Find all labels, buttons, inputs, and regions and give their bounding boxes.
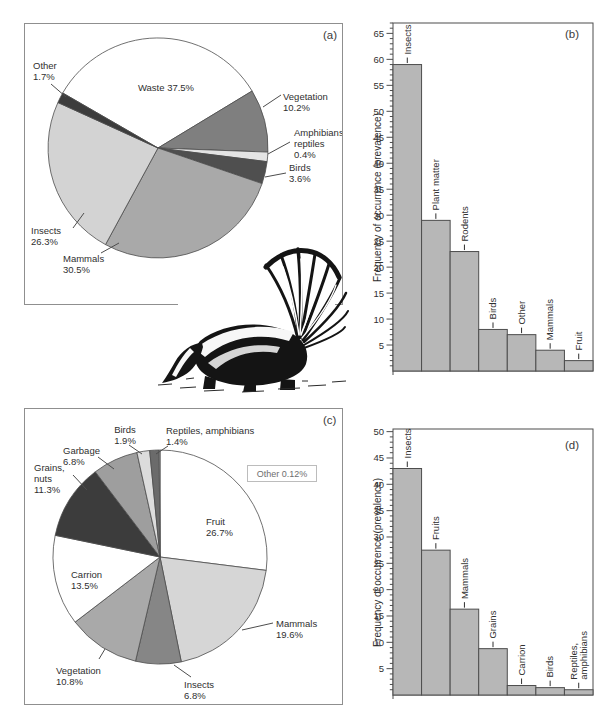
- bar-mammals: [536, 350, 565, 371]
- panel-c-pie-chart: Fruit26.7%Mammals19.6%Insects6.8%Vegetat…: [24, 408, 343, 705]
- pie-label-vegetation: Vegetation: [56, 665, 101, 676]
- panel-a-letter: (a): [323, 29, 337, 41]
- pie-label-insects: 26.3%: [31, 236, 58, 247]
- pie-label-mammals: Mammals: [63, 253, 104, 264]
- bar-label-other: Other: [516, 301, 527, 325]
- bar-label-mammals: Mammals: [544, 299, 555, 340]
- pie-label-mammals: 19.6%: [276, 629, 303, 640]
- y-tick-label: 55: [373, 80, 384, 91]
- bar-label-reptiles-amphibians: amphibians: [578, 631, 589, 680]
- figure: Waste 37.5%Vegetation10.2%Amphibians,rep…: [0, 0, 608, 718]
- panel-d-letter: (d): [565, 439, 579, 451]
- bar-label-plant-matter: Plant matter: [430, 159, 441, 210]
- pie-label-carrion: Carrion: [71, 569, 102, 580]
- bar-mammals: [450, 609, 479, 695]
- bar-fruit: [564, 361, 593, 371]
- y-tick-label: 65: [373, 28, 384, 39]
- panel-b-bar-chart: 5101520253035404550556065InsectsPlant ma…: [360, 0, 608, 390]
- pie-label-fruit: 26.7%: [206, 527, 233, 538]
- skunk-drawing: [150, 235, 360, 395]
- pie-label-reptiles-amphibians: 1.4%: [166, 436, 188, 447]
- bar-carrion: [507, 686, 536, 695]
- pie-label-reptiles-amphibians: Reptiles, amphibians: [166, 425, 254, 436]
- pie-label-insects: Insects: [184, 679, 214, 690]
- pie-label-waste: Waste 37.5%: [138, 82, 195, 93]
- pie-leader-vegetation: [99, 649, 105, 659]
- panel-b-letter: (b): [565, 28, 579, 40]
- pie-label-grains-nuts: nuts: [34, 473, 52, 484]
- bar-label-rodents: Rodents: [459, 206, 470, 242]
- pie-label-garbage: 6.8%: [63, 456, 85, 467]
- pie-label-amphibians-reptiles: Amphibians,: [294, 127, 342, 138]
- bar-plant-matter: [422, 220, 451, 371]
- pie-label-vegetation: Vegetation: [283, 91, 328, 102]
- bar-birds: [536, 688, 565, 695]
- pie-label-birds: Birds: [289, 162, 311, 173]
- bar-label-birds: Birds: [487, 298, 498, 320]
- pie-label-birds: 3.6%: [289, 173, 311, 184]
- y-tick-label: 50: [373, 426, 384, 437]
- bar-label-carrion: Carrion: [516, 644, 527, 675]
- y-tick-label: 60: [373, 54, 384, 65]
- pie-label-vegetation: 10.8%: [56, 676, 83, 687]
- y-tick-label: 10: [373, 314, 384, 325]
- pie-label-birds: 1.9%: [114, 435, 136, 446]
- bar-other: [507, 335, 536, 371]
- pie-label-mammals: 30.5%: [63, 264, 90, 275]
- pie-leader-amphibians-reptiles: [268, 142, 290, 154]
- bar-label-insects: Insects: [402, 428, 413, 458]
- bar-fruits: [422, 550, 451, 695]
- panel-c-letter: (c): [323, 414, 336, 426]
- pie-label-birds: Birds: [114, 424, 136, 435]
- pie-label-mammals: Mammals: [276, 618, 317, 629]
- skunk-illustration: [150, 235, 360, 395]
- bar-birds: [479, 329, 508, 371]
- y-tick-label: 5: [379, 663, 384, 674]
- pie-label-amphibians-reptiles: reptiles: [294, 138, 325, 149]
- pie-label-grains-nuts: 11.3%: [34, 484, 61, 495]
- pie-c-canvas: Fruit26.7%Mammals19.6%Insects6.8%Vegetat…: [25, 409, 342, 704]
- pie-label-garbage: Garbage: [63, 445, 100, 456]
- pie-leader-birds: [265, 173, 286, 177]
- bar-b-canvas: 5101520253035404550556065InsectsPlant ma…: [360, 0, 608, 390]
- y-tick-label: 15: [373, 288, 384, 299]
- pie-label-other: 1.7%: [33, 71, 55, 82]
- pie-leader-insects: [174, 665, 191, 677]
- bar-label-insects: Insects: [402, 24, 413, 54]
- pie-label-fruit: Fruit: [206, 516, 225, 527]
- panel-b-y-axis-label: Frequency of occurrence (prevalence): [372, 113, 383, 282]
- bar-insects: [393, 469, 422, 696]
- bar-reptiles-amphibians: [564, 690, 593, 695]
- bar-rodents: [450, 252, 479, 371]
- bar-grains: [479, 649, 508, 695]
- panel-d-bar-chart: 5101520253035404550InsectsFruitsMammalsG…: [360, 400, 608, 718]
- pie-label-grains-nuts: Grains,: [34, 462, 65, 473]
- other-note-box: Other 0.12%: [247, 465, 317, 482]
- pie-label-amphibians-reptiles: 0.4%: [294, 149, 316, 160]
- pie-label-insects: 6.8%: [184, 690, 206, 701]
- pie-label-vegetation: 10.2%: [283, 102, 310, 113]
- y-tick-label: 45: [373, 452, 384, 463]
- bar-label-birds: Birds: [544, 656, 555, 678]
- pie-label-insects: Insects: [31, 225, 61, 236]
- pie-leader-vegetation: [263, 95, 281, 107]
- bar-label-grains: Grains: [487, 610, 498, 638]
- bar-label-mammals: Mammals: [459, 558, 470, 599]
- bar-label-fruit: Fruit: [573, 331, 584, 350]
- pie-leader-mammals: [242, 623, 273, 630]
- bar-label-fruits: Fruits: [430, 516, 441, 540]
- y-tick-label: 5: [379, 340, 384, 351]
- panel-d-y-axis-label: Frequency of occurrence (prevalence): [372, 478, 383, 647]
- pie-label-carrion: 13.5%: [71, 580, 98, 591]
- bar-insects: [393, 65, 422, 371]
- pie-label-other: Other: [33, 60, 57, 71]
